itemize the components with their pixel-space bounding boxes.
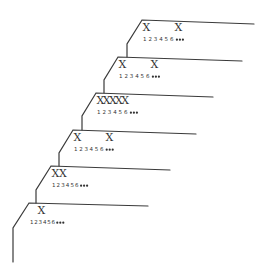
cell-number: 2 [124,73,128,79]
cell-number: 5 [95,146,99,152]
cell-number: 6 [124,109,128,115]
layer-6: 123456X [13,203,148,262]
x-mark: X [175,21,183,34]
ellipsis-dot [182,39,184,41]
layer-1: 123456XX [127,20,254,57]
layer-5: 123456XX [36,166,170,203]
x-mark: X [74,131,82,144]
ellipsis-dot [155,76,157,78]
ellipsis-dot [59,222,61,224]
cell-number: 5 [119,109,123,115]
x-mark: X [151,58,159,71]
cell-number: 2 [57,182,61,188]
cell-number: 2 [148,36,152,42]
x-mark: X [106,131,114,144]
x-mark: X [143,21,151,34]
x-mark: X [38,204,46,217]
ellipsis-dot [176,39,178,41]
diagram-canvas: 123456XX123456XX123456XXXXX123456XX12345… [0,0,267,268]
cell-number: 6 [75,182,79,188]
ellipsis-dot [109,149,111,151]
layer-4: 123456XX [59,130,196,166]
cell-number: 6 [52,219,56,225]
ellipsis-dot [56,222,58,224]
layer-2: 123456XX [104,57,242,93]
ellipsis-dot [179,39,181,41]
cell-number: 6 [146,73,150,79]
cell-number: 5 [70,182,74,188]
ellipsis-dot [112,149,114,151]
layer-3: 123456XXXXX [82,93,213,130]
cell-number: 4 [135,73,139,79]
ellipsis-dot [133,112,135,114]
x-mark: X [59,167,67,180]
ellipsis-dot [62,222,64,224]
ellipsis-dot [136,112,138,114]
ellipsis-dot [83,185,85,187]
cell-number: 2 [102,109,106,115]
cell-number: 4 [159,36,163,42]
cell-number: 6 [170,36,174,42]
cell-number: 1 [30,219,34,225]
cell-number: 5 [165,36,169,42]
stacked-layers-diagram: 123456XX123456XX123456XXXXX123456XX12345… [0,0,267,268]
cell-number: 1 [119,73,123,79]
cell-number: 3 [154,36,158,42]
ellipsis-dot [152,76,154,78]
cell-number: 1 [74,146,78,152]
ellipsis-dot [130,112,132,114]
ellipsis-dot [106,149,108,151]
cell-number: 1 [143,36,147,42]
cell-number: 2 [79,146,83,152]
cell-number: 2 [34,219,38,225]
ellipsis-dot [158,76,160,78]
cell-number: 4 [90,146,94,152]
cell-number: 4 [66,182,70,188]
cell-number: 5 [141,73,145,79]
layer-outline [13,203,148,262]
cell-number: 6 [100,146,104,152]
ellipsis-dot [80,185,82,187]
cell-number: 1 [52,182,56,188]
cell-number: 3 [61,182,65,188]
cell-number: 4 [113,109,117,115]
cell-number: 3 [130,73,134,79]
x-mark: X [119,58,127,71]
x-mark: X [121,94,129,107]
cell-number: 3 [108,109,112,115]
cell-number: 1 [97,109,101,115]
cell-number: 3 [84,146,88,152]
ellipsis-dot [86,185,88,187]
